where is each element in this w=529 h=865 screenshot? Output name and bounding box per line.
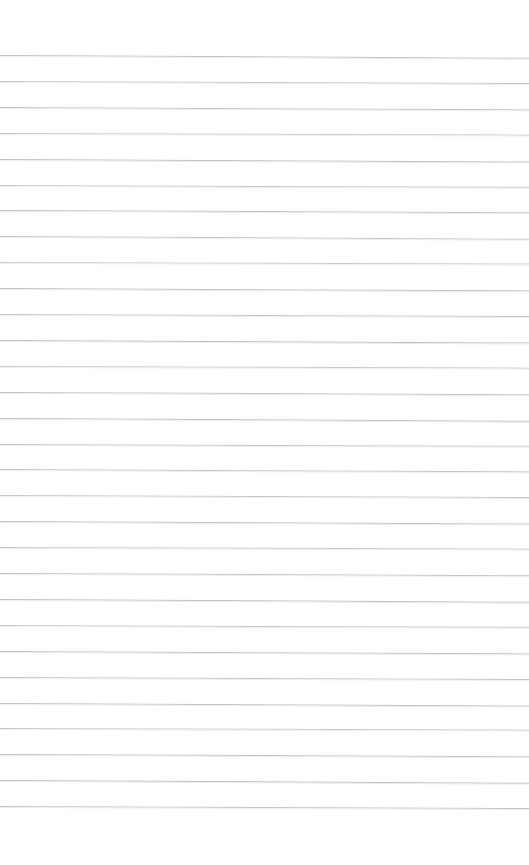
- paper-page: [0, 0, 529, 865]
- document-body-text[interactable]: [0, 0, 529, 865]
